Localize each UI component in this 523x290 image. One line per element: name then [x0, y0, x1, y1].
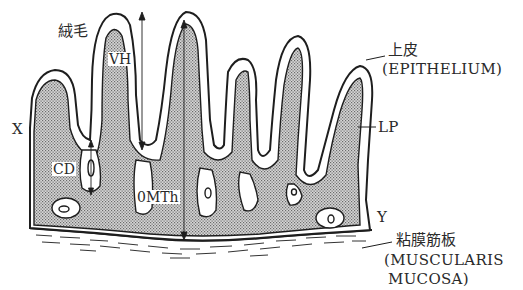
point-y-label: Y [377, 210, 387, 225]
point-x-label: X [12, 122, 23, 137]
villus-label-jp: 絨毛 [58, 24, 88, 39]
crypt-depth-label: CD [52, 162, 76, 176]
muscularis-label-en-1: (MUSCULARIS [384, 253, 504, 268]
epithelium-label-jp: 上皮 [388, 43, 418, 58]
muscularis-label-en-2: MUCOSA) [388, 272, 469, 287]
mucosal-thickness-label: 0MTh [136, 190, 180, 204]
villus-height-label: VH [108, 52, 132, 66]
muscularis-label-jp: 粘膜筋板 [396, 233, 456, 248]
lamina-propria-label: LP [378, 120, 399, 135]
epithelium-label-en: (EPITHELIUM) [382, 62, 502, 77]
